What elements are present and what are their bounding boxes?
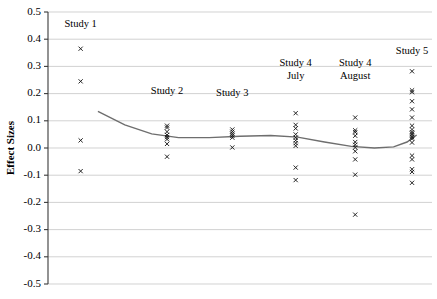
- data-point-marker: [410, 124, 414, 128]
- y-axis-title: Effect Sizes: [4, 120, 16, 175]
- data-point-marker: [294, 178, 298, 182]
- y-tick-label: 0.0: [27, 141, 41, 153]
- data-point-marker: [79, 79, 83, 83]
- data-point-marker: [410, 69, 414, 73]
- data-point-marker: [165, 137, 169, 141]
- effect-sizes-scatter-chart: 0.50.40.30.20.10.0-0.1-0.2-0.3-0.4-0.5Ef…: [0, 0, 437, 299]
- study-label: Study 5: [396, 45, 428, 56]
- data-point-marker: [410, 154, 414, 158]
- y-tick-label: -0.5: [24, 277, 42, 289]
- y-tick-label: -0.1: [24, 168, 41, 180]
- data-point-marker: [410, 181, 414, 185]
- study-label: July: [287, 70, 305, 81]
- y-tick-label: 0.3: [27, 59, 41, 71]
- data-point-marker: [410, 140, 414, 144]
- data-point-marker: [230, 145, 234, 149]
- y-tick-label: -0.3: [24, 222, 42, 234]
- study-label: Study 4: [339, 57, 372, 68]
- study-label: Study 4: [279, 57, 312, 68]
- data-point-marker: [230, 127, 234, 131]
- chart-canvas: 0.50.40.30.20.10.0-0.1-0.2-0.3-0.4-0.5Ef…: [0, 0, 437, 299]
- data-point-marker: [165, 142, 169, 146]
- data-point-marker: [165, 155, 169, 159]
- data-point-marker: [353, 157, 357, 161]
- data-point-marker: [294, 111, 298, 115]
- data-point-marker: [410, 157, 414, 161]
- study-label: Study 2: [151, 85, 183, 96]
- trend-line: [98, 111, 417, 148]
- y-tick-label: 0.5: [27, 5, 41, 17]
- data-point-marker: [353, 115, 357, 119]
- data-point-marker: [79, 138, 83, 142]
- study-label: Study 1: [64, 18, 96, 29]
- data-point-marker: [79, 169, 83, 173]
- data-point-marker: [410, 99, 414, 103]
- data-point-marker: [294, 126, 298, 130]
- data-point-marker: [410, 107, 414, 111]
- data-point-marker: [230, 130, 234, 134]
- data-point-marker: [353, 173, 357, 177]
- data-point-marker: [410, 170, 414, 174]
- y-tick-label: 0.2: [27, 86, 41, 98]
- data-point-marker: [294, 144, 298, 148]
- data-point-marker: [79, 47, 83, 51]
- data-point-marker: [294, 165, 298, 169]
- data-point-marker: [353, 213, 357, 217]
- y-tick-label: -0.2: [24, 195, 41, 207]
- study-label: Study 3: [216, 87, 248, 98]
- y-tick-label: 0.1: [27, 113, 41, 125]
- data-point-marker: [410, 115, 414, 119]
- y-tick-label: 0.4: [27, 32, 41, 44]
- data-point-marker: [353, 149, 357, 153]
- y-tick-label: -0.4: [24, 249, 42, 261]
- data-point-marker: [353, 134, 357, 138]
- study-label: August: [340, 70, 370, 81]
